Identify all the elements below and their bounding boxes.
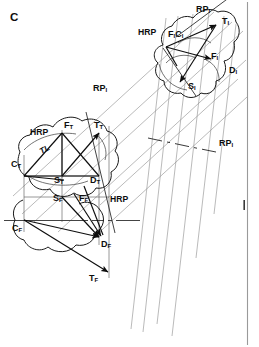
- projection-rays-vertical: [131, 12, 236, 336]
- hrp-rp-line-right: [148, 138, 216, 152]
- label-rp-middle: RPI: [93, 84, 107, 94]
- label-s1: SI: [188, 82, 196, 92]
- label-cf: CF: [12, 224, 22, 234]
- label-sf: SF: [53, 194, 63, 204]
- figure-panel-c: C RPI HRP FICI TI FI SI DI RPI RPI HRP T…: [0, 0, 259, 347]
- label-rp-proximal: RPI: [196, 5, 210, 15]
- femur-vectors: [24, 186, 108, 272]
- label-t1: TI: [222, 17, 229, 27]
- label-st: ST: [54, 176, 64, 186]
- label-rp-right: RPI: [219, 139, 233, 149]
- label-f1: FI: [211, 52, 218, 62]
- femur-outline: [13, 200, 103, 252]
- label-ct: CT: [11, 160, 21, 170]
- label-hrp-femur: HRP: [110, 195, 128, 204]
- label-hrp-proximal: HRP: [138, 28, 156, 37]
- label-hrp-tibia: HRP: [30, 128, 48, 137]
- label-tt: TT: [94, 121, 103, 131]
- label-dt: DT: [90, 176, 100, 186]
- page-border: [244, 2, 247, 345]
- page-title: C: [10, 12, 19, 24]
- label-ff: FF: [79, 194, 88, 204]
- diagram-canvas: [0, 0, 259, 347]
- label-d1: DI: [229, 66, 237, 76]
- label-f1c1: FICI: [168, 30, 183, 40]
- label-ft: FT: [64, 121, 73, 131]
- label-tf: TF: [89, 274, 98, 284]
- label-df: DF: [101, 240, 111, 250]
